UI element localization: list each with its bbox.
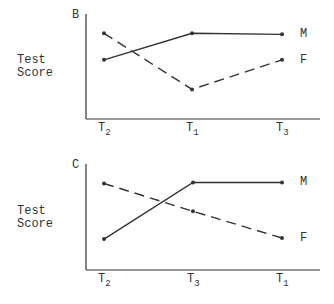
panel-label: C xyxy=(72,158,79,172)
data-point xyxy=(191,180,195,184)
series-label-f: F xyxy=(300,231,307,245)
x-tick-label: T3 xyxy=(276,121,289,138)
data-point xyxy=(102,181,106,185)
data-point xyxy=(280,236,284,240)
data-point xyxy=(191,209,195,213)
data-point xyxy=(280,58,284,62)
series-label-m: M xyxy=(300,27,307,41)
chart-panel-b: BTestScoreT2T1T3MF xyxy=(17,8,320,138)
y-axis-label: Test xyxy=(17,53,46,67)
series-line-f xyxy=(104,33,282,89)
line-charts: BTestScoreT2T1T3MFCTestScoreT2T3T1MF xyxy=(0,0,334,304)
x-tick-label: T2 xyxy=(98,272,111,289)
series-label-m: M xyxy=(300,175,307,189)
chart-panel-c: CTestScoreT2T3T1MF xyxy=(17,158,320,289)
y-axis-label: Score xyxy=(17,217,53,231)
x-tick-label: T3 xyxy=(187,272,200,289)
y-axis-label: Score xyxy=(17,66,53,80)
panel-label: B xyxy=(72,8,79,22)
x-tick-label: T1 xyxy=(276,272,289,289)
x-tick-label: T1 xyxy=(186,121,199,138)
data-point xyxy=(190,31,194,35)
data-point xyxy=(102,237,106,241)
data-point xyxy=(280,32,284,36)
data-point xyxy=(280,180,284,184)
data-point xyxy=(102,31,106,35)
series-label-f: F xyxy=(300,53,307,67)
y-axis-label: Test xyxy=(17,204,46,218)
x-tick-label: T2 xyxy=(98,121,111,138)
series-line-m xyxy=(104,33,282,60)
data-point xyxy=(102,58,106,62)
data-point xyxy=(190,87,194,91)
